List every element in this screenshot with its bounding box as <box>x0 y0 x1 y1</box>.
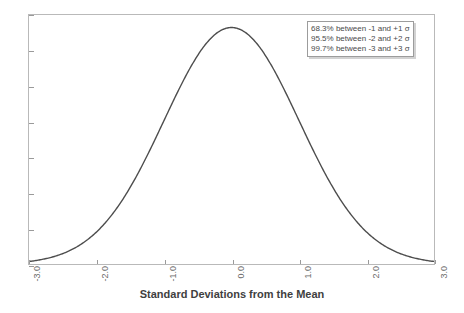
x-axis-title: Standard Deviations from the Mean <box>0 288 464 300</box>
x-axis-tick <box>233 260 234 264</box>
y-axis-tick <box>29 87 34 88</box>
x-axis-tick-label: -1.0 <box>168 266 178 282</box>
legend-box: 68.3% between -1 and +1 σ 95.5% between … <box>307 21 414 57</box>
legend-line-1sigma: 68.3% between -1 and +1 σ <box>311 24 410 34</box>
y-axis-tick <box>29 15 34 16</box>
x-axis-tick-labels: -3.0-2.0-1.00.01.02.03.0 <box>28 266 435 288</box>
y-axis-tick <box>29 158 34 159</box>
x-axis-tick-label: -3.0 <box>32 266 42 282</box>
normal-distribution-chart: -3.0-2.0-1.00.01.02.03.0 Standard Deviat… <box>0 0 464 313</box>
y-axis-tick <box>29 123 34 124</box>
y-axis-tick <box>29 230 34 231</box>
x-axis-tick-label: 3.0 <box>439 266 449 279</box>
x-axis-tick-label: -2.0 <box>100 266 110 282</box>
x-axis-tick <box>165 260 166 264</box>
x-axis-tick <box>368 260 369 264</box>
x-axis-tick <box>29 260 30 264</box>
legend-line-2sigma: 95.5% between -2 and +2 σ <box>311 34 410 44</box>
y-axis-tick <box>29 194 34 195</box>
y-axis-tick <box>29 51 34 52</box>
legend-line-3sigma: 99.7% between -3 and +3 σ <box>311 44 410 54</box>
x-axis-tick-label: 1.0 <box>303 266 313 279</box>
x-axis-tick-label: 0.0 <box>236 266 246 279</box>
x-axis-tick <box>300 260 301 264</box>
x-axis-tick <box>97 260 98 264</box>
x-axis-tick <box>435 260 436 264</box>
x-axis-tick-label: 2.0 <box>371 266 381 279</box>
